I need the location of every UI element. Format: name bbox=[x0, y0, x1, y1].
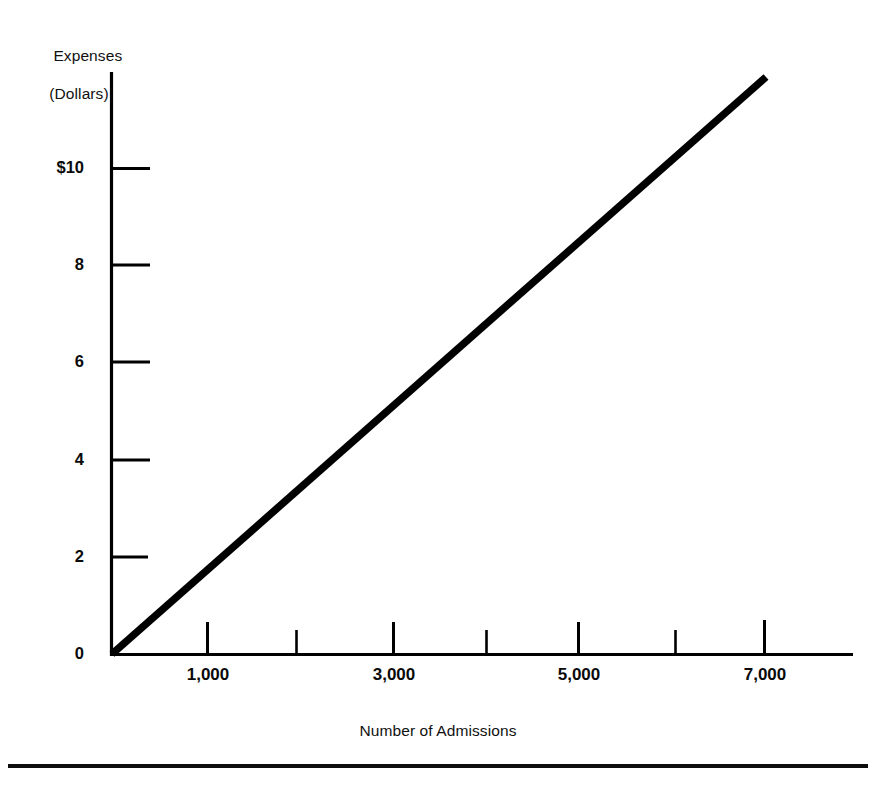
x-tick-label-5000: 5,000 bbox=[534, 665, 624, 685]
x-axis-title: Number of Admissions bbox=[0, 721, 876, 740]
x-tick-label-7000: 7,000 bbox=[720, 665, 810, 685]
y-tick-label-0: 0 bbox=[24, 644, 84, 663]
bottom-divider bbox=[8, 764, 868, 768]
chart-figure: Expenses (Dollars) $10 8 6 bbox=[0, 0, 876, 786]
y-tick-label-8: 8 bbox=[24, 255, 84, 274]
y-tick-label-2: 2 bbox=[24, 547, 84, 566]
y-tick-label-6: 6 bbox=[24, 352, 84, 371]
x-tick-label-1000: 1,000 bbox=[163, 665, 253, 685]
y-tick-label-4: 4 bbox=[24, 450, 84, 469]
y-axis-ticks bbox=[113, 169, 150, 558]
x-tick-label-3000: 3,000 bbox=[349, 665, 439, 685]
x-axis-ticks bbox=[208, 620, 765, 653]
expense-line-series bbox=[112, 77, 766, 654]
y-tick-label-10: $10 bbox=[24, 158, 84, 177]
